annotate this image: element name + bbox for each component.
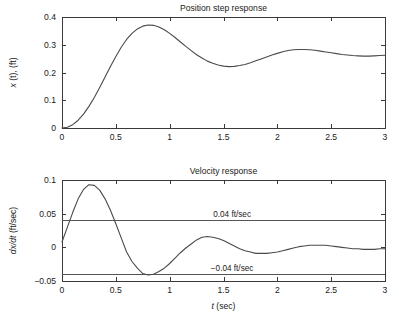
reference-line-label: 0.04 ft/sec: [213, 210, 251, 219]
velocity-response-title: Velocity response: [190, 166, 258, 176]
y-tick-label: 0.1: [44, 175, 56, 185]
x-tick-label: 1: [167, 132, 172, 142]
xlabel-rest: (sec): [214, 301, 236, 311]
position-step-response-axes-frame: [63, 18, 386, 129]
velocity-response-plot: Velocity response00.511.522.53−0.0500.05…: [8, 166, 388, 311]
x-tick-label: 1.5: [218, 285, 230, 295]
position-step-response-plot: Position step response00.511.522.5300.10…: [8, 3, 388, 142]
y-tick-label: 0.05: [39, 209, 56, 219]
x-tick-label: 1: [167, 285, 172, 295]
y-tick-label: 0: [51, 242, 56, 252]
ylabel-italic: dx/dt: [8, 235, 18, 254]
y-tick-label: 0.4: [44, 12, 56, 22]
x-tick-label: 3: [383, 285, 388, 295]
y-tick-label: −0.05: [34, 276, 56, 286]
x-tick-label: 2: [275, 132, 280, 142]
figure-container: Position step response00.511.522.5300.10…: [0, 0, 399, 317]
position-step-response-curve: [62, 25, 385, 128]
ylabel-rest: (ft/sec): [8, 207, 18, 236]
position-step-response-ylabel: x (t), (ft): [8, 57, 18, 88]
y-tick-label: 0: [51, 123, 56, 133]
velocity-response-xlabel: t (sec): [212, 301, 236, 311]
ylabel-rest: (t), (ft): [8, 57, 18, 83]
y-tick-label: 0.3: [44, 40, 56, 50]
y-tick-label: 0.1: [44, 95, 56, 105]
step-response-figure: Position step response00.511.522.5300.10…: [0, 0, 399, 317]
x-tick-label: 0.5: [110, 132, 122, 142]
x-tick-label: 2.5: [325, 285, 337, 295]
velocity-response-curve: [62, 185, 385, 275]
x-tick-label: 2: [275, 285, 280, 295]
x-tick-label: 3: [383, 132, 388, 142]
x-tick-label: 0: [60, 285, 65, 295]
x-tick-label: 2.5: [325, 132, 337, 142]
position-step-response-title: Position step response: [180, 3, 267, 13]
reference-line-label: −0.04 ft/sec: [211, 264, 254, 273]
x-tick-label: 0: [60, 132, 65, 142]
x-tick-label: 1.5: [218, 132, 230, 142]
y-tick-label: 0.2: [44, 68, 56, 78]
x-tick-label: 0.5: [110, 285, 122, 295]
velocity-response-ylabel: dx/dt (ft/sec): [8, 207, 18, 254]
